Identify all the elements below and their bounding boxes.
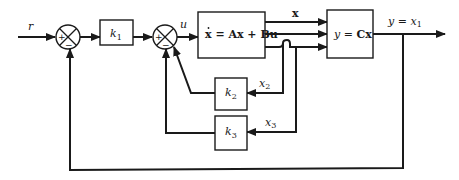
gain-k1-block: k1 [100, 20, 133, 45]
x3-feedback: x3 [247, 47, 296, 132]
output-map-c: Cx [356, 28, 372, 41]
output-signal: y = x1 [373, 15, 445, 34]
output-map-block: y = Cx [327, 10, 373, 58]
svg-text:y = Cx: y = Cx [333, 28, 372, 41]
state-label: x [292, 7, 299, 20]
gain-k1-subscript: 1 [117, 33, 122, 42]
minus-sign: − [162, 40, 170, 50]
gain-k3-block: k3 [215, 116, 247, 150]
minus-sign: − [65, 40, 73, 50]
svg-text:x2: x2 [259, 77, 270, 91]
svg-text:x3: x3 [265, 116, 276, 130]
control-label: u [180, 18, 187, 31]
state-vector-lines: x [265, 7, 327, 47]
reference-label: r [28, 20, 34, 33]
summing-junction-2: + − [153, 25, 177, 50]
control-signal: u [177, 18, 198, 37]
output-label: y = x [387, 15, 417, 28]
output-subscript: 1 [417, 20, 422, 29]
reference-input: r [18, 20, 55, 37]
svg-text:y = x1: y = x1 [387, 15, 422, 29]
gain-k2-block: k2 [215, 78, 247, 110]
block-diagram: r + − k1 + − u x = Ax + Bu [0, 0, 459, 180]
summing-junction-1: + − [56, 25, 80, 50]
